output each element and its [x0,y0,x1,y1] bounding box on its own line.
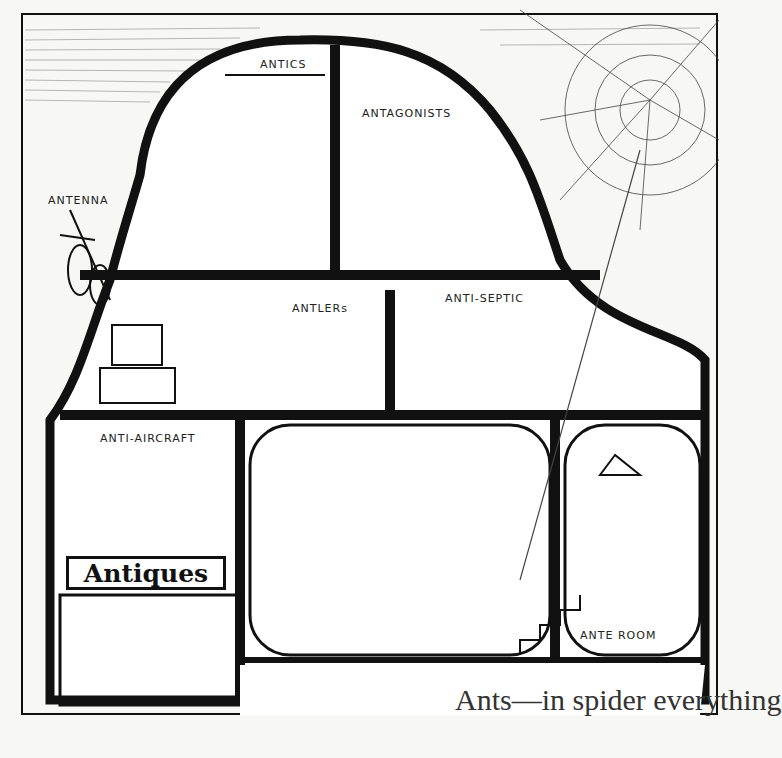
room-label-antiseptic: ANTI-SEPTIC [445,292,524,305]
label-antenna: ANTENNA [48,194,108,207]
room-label-antics: ANTICS [260,58,306,71]
antiques-sign: Antiques [66,556,226,590]
room-label-anteroom: ANTE ROOM [580,629,656,642]
mound-outline [50,40,705,700]
room-label-antlers: ANTLERs [292,302,348,315]
illustration-caption: Ants—in spider everything [455,683,782,717]
room-label-antiaircraft: ANTI-AIRCRAFT [100,432,196,445]
room-label-antagonists: ANTAGONISTS [362,107,451,120]
